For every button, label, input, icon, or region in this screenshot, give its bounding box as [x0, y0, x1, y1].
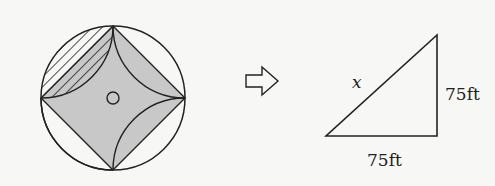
hollow-right-arrow-icon: [246, 67, 278, 95]
figure-canvas: [0, 0, 495, 186]
horizontal-leg-label: 75ft: [367, 150, 402, 170]
hypotenuse-label: x: [352, 72, 362, 92]
right-triangle: [326, 35, 437, 136]
vertical-leg-label: 75ft: [445, 84, 480, 104]
circle-diagram: [41, 26, 185, 170]
